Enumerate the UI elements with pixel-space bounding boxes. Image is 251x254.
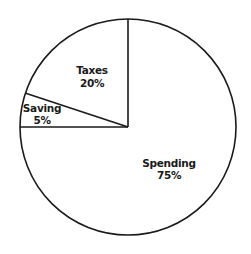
pie-chart: Taxes 20% Saving 5% Spending 75% [0, 0, 251, 254]
slice-name: Taxes [76, 64, 108, 76]
slice-percent: 75% [157, 169, 182, 181]
slice-name: Spending [142, 157, 195, 169]
slice-percent: 5% [33, 114, 51, 126]
slice-label-taxes: Taxes 20% [76, 64, 108, 89]
slice-percent: 20% [80, 77, 105, 89]
slice-name: Saving [23, 102, 61, 114]
